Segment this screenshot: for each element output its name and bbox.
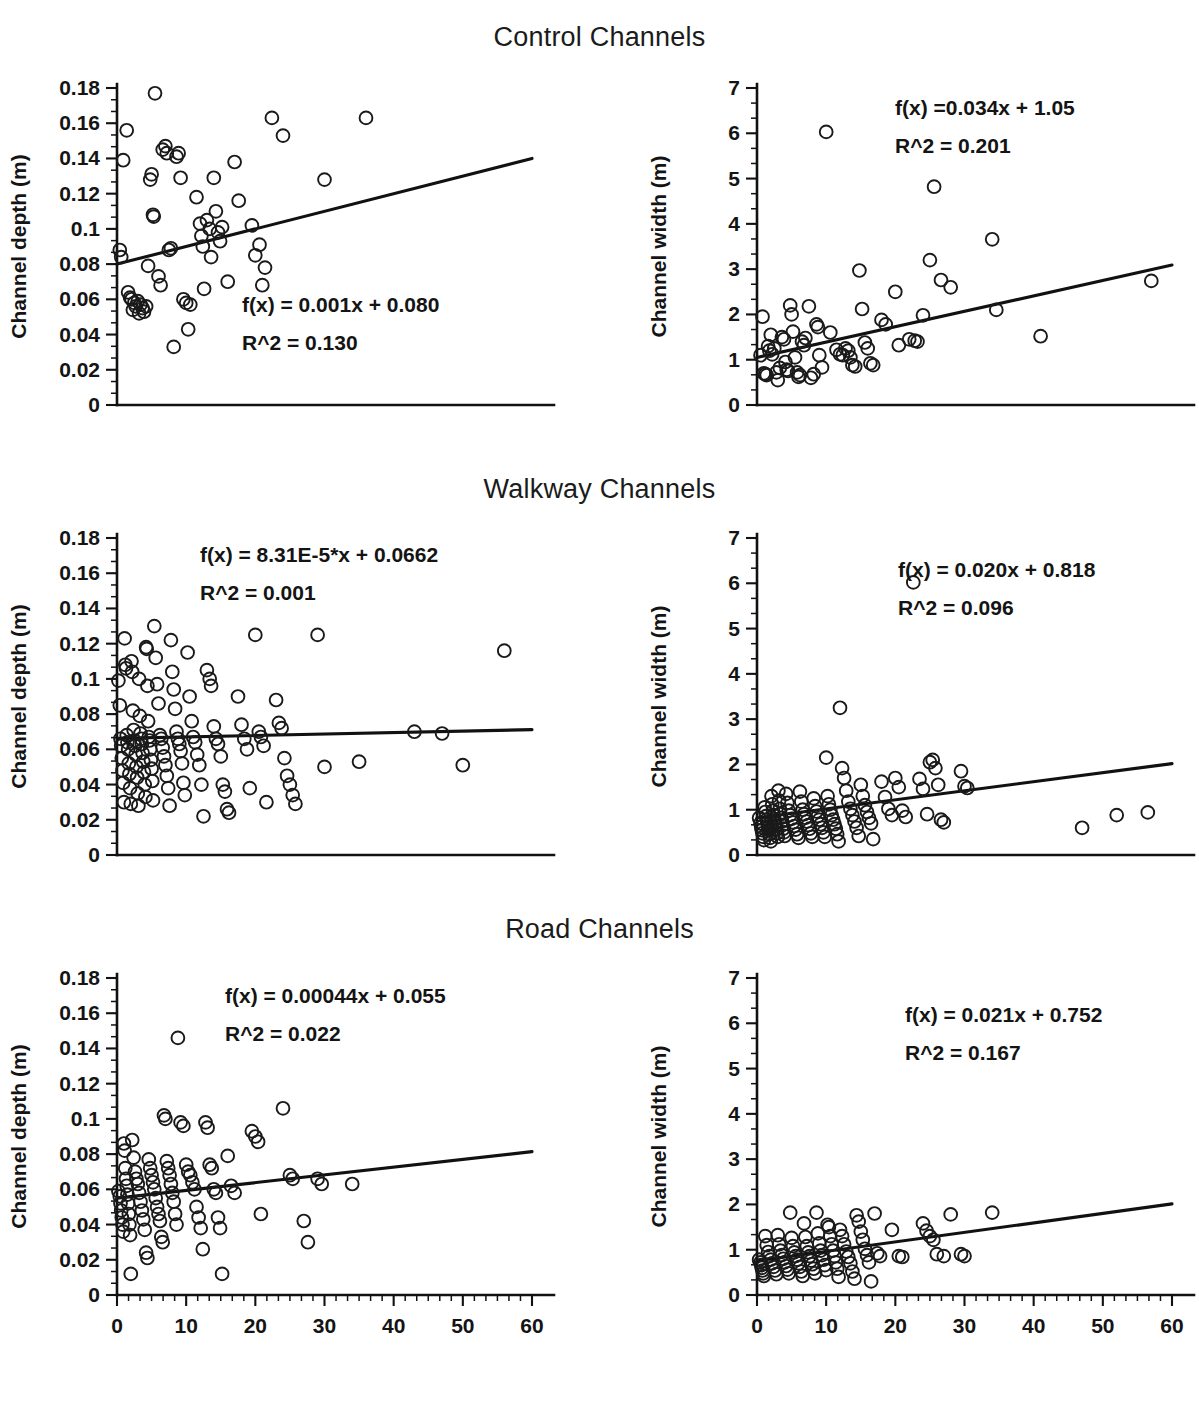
y-tick-label: 3 — [728, 1147, 740, 1170]
data-point — [118, 632, 131, 645]
data-point — [955, 765, 968, 778]
data-point — [852, 830, 865, 843]
data-point — [771, 374, 784, 387]
data-point — [177, 776, 190, 789]
data-point — [937, 816, 950, 829]
data-point — [311, 629, 324, 642]
data-point — [167, 1195, 180, 1208]
data-point — [853, 264, 866, 277]
data-point — [807, 368, 820, 381]
y-tick-label: 1 — [728, 348, 740, 371]
regression-line — [757, 1204, 1172, 1261]
y-tick-label: 0.06 — [59, 287, 100, 310]
data-point — [318, 173, 331, 186]
data-point — [214, 750, 227, 763]
data-point — [346, 1178, 359, 1191]
data-point — [318, 761, 331, 774]
data-point — [174, 171, 187, 184]
data-point — [120, 124, 133, 137]
y-tick-label: 0 — [88, 1283, 100, 1306]
data-point — [867, 833, 880, 846]
data-point — [149, 651, 162, 664]
data-point — [172, 1032, 185, 1045]
y-tick-label: 5 — [728, 1057, 740, 1080]
data-point — [256, 279, 269, 292]
data-point — [112, 674, 125, 687]
data-point — [181, 646, 194, 659]
y-tick-label: 2 — [728, 302, 740, 325]
data-point — [820, 751, 833, 764]
y-tick-label: 0.1 — [71, 667, 101, 690]
panel-walkway-width: 01234567Channel width (m)f(x) = 0.020x +… — [640, 510, 1199, 900]
data-point — [223, 806, 236, 819]
data-point — [207, 720, 220, 733]
y-axis-label: Channel width (m) — [647, 156, 670, 338]
data-point — [133, 673, 146, 686]
data-point — [785, 308, 798, 321]
equation-annotation: f(x) = 0.020x + 0.818 — [898, 558, 1096, 581]
y-tick-label: 0.18 — [59, 76, 100, 99]
data-point — [816, 361, 829, 374]
data-point — [1034, 330, 1047, 343]
y-tick-label: 0.04 — [59, 323, 100, 346]
data-point — [166, 665, 179, 678]
regression-line — [757, 265, 1172, 357]
data-point — [266, 112, 279, 125]
data-point — [145, 762, 158, 775]
data-point — [986, 1206, 999, 1219]
data-point — [255, 1208, 268, 1221]
y-tick-label: 4 — [728, 212, 740, 235]
r-squared-annotation: R^2 = 0.022 — [225, 1022, 341, 1045]
y-tick-label: 0.02 — [59, 808, 100, 831]
data-point — [167, 341, 180, 354]
data-point — [986, 233, 999, 246]
x-tick-label: 30 — [953, 1314, 976, 1337]
x-tick-label: 0 — [111, 1314, 123, 1337]
data-point — [353, 755, 366, 768]
data-point — [182, 323, 195, 336]
y-tick-label: 0.14 — [59, 596, 100, 619]
x-tick-label: 40 — [382, 1314, 405, 1337]
data-point — [302, 1236, 315, 1249]
data-point — [360, 112, 373, 125]
data-point — [928, 180, 941, 193]
data-point — [1076, 821, 1089, 834]
y-tick-label: 0.18 — [59, 966, 100, 989]
y-tick-label: 0.08 — [59, 702, 100, 725]
r-squared-annotation: R^2 = 0.096 — [898, 596, 1014, 619]
data-point — [198, 282, 211, 295]
scatter-plot: 012345670102030405060Channel width (m)Di… — [640, 950, 1199, 1340]
r-squared-annotation: R^2 = 0.130 — [242, 331, 358, 354]
data-point — [177, 1120, 190, 1133]
r-squared-annotation: R^2 = 0.201 — [895, 134, 1011, 157]
data-point — [277, 129, 290, 142]
data-point — [165, 634, 178, 647]
data-point — [270, 694, 283, 707]
data-point — [798, 1217, 811, 1230]
data-point — [868, 1207, 881, 1220]
y-tick-label: 6 — [728, 1011, 740, 1034]
data-point — [813, 349, 826, 362]
y-tick-label: 4 — [728, 662, 740, 685]
data-point — [154, 279, 167, 292]
data-point — [498, 644, 511, 657]
data-point — [152, 697, 165, 710]
data-point — [216, 1268, 229, 1281]
y-tick-label: 6 — [728, 571, 740, 594]
data-point — [259, 261, 272, 274]
scatter-plot: 00.020.040.060.080.10.120.140.160.18Chan… — [0, 510, 560, 900]
x-tick-label: 40 — [1022, 1314, 1045, 1337]
y-tick-label: 0.18 — [59, 526, 100, 549]
data-point — [932, 778, 945, 791]
panel-road-width: 012345670102030405060Channel width (m)Di… — [640, 950, 1199, 1340]
data-point — [436, 727, 449, 740]
y-tick-label: 0.02 — [59, 358, 100, 381]
data-point — [921, 808, 934, 821]
y-axis-label: Channel depth (m) — [7, 604, 30, 788]
data-point — [117, 154, 130, 167]
data-point — [1145, 275, 1158, 288]
data-point — [944, 281, 957, 294]
scatter-plot: 00.020.040.060.080.10.120.140.160.180102… — [0, 950, 560, 1340]
data-point — [203, 223, 216, 236]
data-point — [297, 1215, 310, 1228]
